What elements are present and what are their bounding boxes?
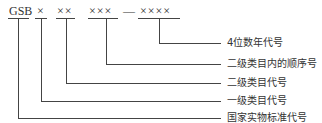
label-sequence: 二级类目内的顺序号	[227, 58, 317, 70]
code-dash: —	[123, 4, 135, 18]
label-year: 4位数年代号	[227, 37, 283, 49]
code-sequence: ×××	[89, 4, 112, 18]
underline-sequence	[88, 18, 118, 19]
connector-year-horizontal	[159, 43, 221, 44]
connector-gsb-horizontal	[18, 118, 221, 119]
connector-level1-vertical	[41, 18, 42, 102]
connector-sequence-horizontal	[106, 64, 221, 65]
code-prefix-gsb: GSB	[9, 4, 32, 18]
label-national-standard: 国家实物标准代号	[227, 112, 307, 123]
label-level1: 一级类目代号	[227, 95, 287, 107]
connector-year-vertical	[159, 18, 160, 44]
code-level2: ××	[57, 4, 73, 18]
connector-gsb-vertical	[18, 18, 19, 119]
code-year: ××××	[140, 4, 171, 18]
connector-level2-horizontal	[66, 83, 221, 84]
connector-level1-horizontal	[41, 101, 221, 102]
code-level1: ×	[37, 4, 44, 18]
connector-level2-vertical	[66, 18, 67, 84]
label-level2: 二级类目代号	[227, 77, 287, 89]
connector-sequence-vertical	[106, 18, 107, 65]
